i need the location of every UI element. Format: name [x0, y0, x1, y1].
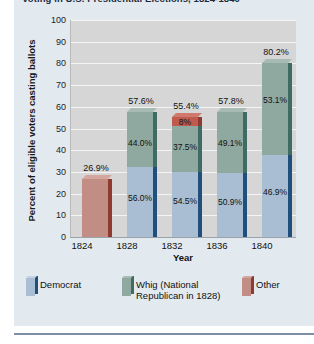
legend-label-whig-line1: Whig (National: [136, 279, 198, 290]
bar-top-whig-1836: [217, 108, 247, 112]
bar-segment-other-1832[interactable]: 8%: [172, 117, 198, 127]
x-tick-1832: 1832: [152, 240, 192, 251]
x-tick-1836: 1836: [197, 240, 237, 251]
chart-legend: Democrat Whig (National Republican in 18…: [26, 276, 304, 316]
x-axis-line: [70, 237, 296, 238]
total-label-1836: 57.8%: [213, 96, 249, 106]
segment-label-whig-1840: 53.1%: [262, 95, 288, 105]
total-label-1824: 26.9%: [78, 163, 114, 173]
bar-group-1828[interactable]: 57.6% 56.0% 44.0%: [127, 112, 157, 237]
bar-group-1832[interactable]: 55.4% 54.5% 37.5% 8%: [172, 117, 202, 237]
legend-item-other[interactable]: Other: [242, 276, 304, 296]
segment-label-whig-1832: 37.5%: [172, 142, 198, 152]
y-tick-50: 50: [40, 124, 66, 134]
total-label-1840: 80.2%: [258, 47, 294, 57]
legend-label-whig: Whig (National Republican in 1828): [136, 276, 221, 301]
bar-side-democrat-1832: [198, 172, 202, 238]
bar-side-democrat-1828: [153, 167, 157, 237]
bar-segment-whig-1828[interactable]: 44.0%: [127, 112, 153, 167]
bar-segment-democrat-1840[interactable]: 46.9%: [262, 155, 288, 237]
y-axis-title-text: Percent of eligible voters casting ballo…: [26, 39, 37, 221]
bar-group-1840[interactable]: 80.2% 46.9% 53.1%: [262, 63, 292, 237]
bar-side-whig-1832: [198, 126, 202, 171]
plot-wrapper: Percent of eligible voters casting ballo…: [24, 14, 304, 262]
bar-side-whig-1840: [288, 63, 292, 155]
legend-label-other: Other: [256, 276, 280, 290]
chart-screenshot: Voting in U.S. Presidential Elections, 1…: [0, 0, 314, 344]
y-tick-20: 20: [40, 189, 66, 199]
bar-group-1836[interactable]: 57.8% 50.9% 49.1%: [217, 112, 247, 237]
x-tick-1828: 1828: [107, 240, 147, 251]
y-tick-40: 40: [40, 145, 66, 155]
bar-side-whig-1828: [153, 112, 157, 167]
bar-side-democrat-1836: [243, 173, 247, 237]
legend-swatch-other-icon: [242, 278, 251, 296]
bar-side-other-1832: [198, 117, 202, 127]
bar-series-container: 26.9% 57.6% 56.0%: [70, 20, 296, 237]
legend-label-democrat: Democrat: [40, 276, 81, 290]
y-tick-30: 30: [40, 167, 66, 177]
bar-side-whig-1836: [243, 112, 247, 174]
legend-swatch-whig-icon: [122, 278, 131, 296]
bar-segment-democrat-1832[interactable]: 54.5%: [172, 172, 198, 238]
segment-label-whig-1828: 44.0%: [127, 138, 153, 148]
bar-segment-whig-1836[interactable]: 49.1%: [217, 112, 243, 174]
y-tick-80: 80: [40, 58, 66, 68]
bar-top-other-1824: [82, 175, 112, 179]
x-tick-1840: 1840: [242, 240, 282, 251]
y-tick-10: 10: [40, 210, 66, 220]
y-tick-60: 60: [40, 102, 66, 112]
x-axis-title: Year: [70, 252, 296, 263]
bar-group-1824[interactable]: 26.9%: [82, 179, 112, 237]
figure-title: Voting in U.S. Presidential Elections, 1…: [22, 0, 308, 4]
legend-label-whig-line2: Republican in 1828): [136, 290, 221, 301]
bar-top-whig-1840: [262, 59, 292, 63]
segment-label-democrat-1836: 50.9%: [217, 197, 243, 207]
bar-side-democrat-1840: [288, 155, 292, 237]
total-label-1828: 57.6%: [123, 96, 159, 106]
bottom-divider: [14, 333, 314, 335]
y-tick-90: 90: [40, 37, 66, 47]
segment-label-democrat-1832: 54.5%: [172, 196, 198, 206]
legend-item-whig[interactable]: Whig (National Republican in 1828): [122, 276, 242, 301]
y-axis-title: Percent of eligible voters casting ballo…: [22, 14, 40, 246]
bar-segment-other-1824[interactable]: [82, 179, 108, 237]
y-tick-70: 70: [40, 80, 66, 90]
bar-top-other-1832: [172, 113, 202, 117]
segment-label-other-1832: 8%: [172, 117, 198, 127]
figure-panel: Voting in U.S. Presidential Elections, 1…: [14, 0, 314, 326]
bar-segment-whig-1832[interactable]: 37.5%: [172, 126, 198, 171]
bar-top-whig-1828: [127, 108, 157, 112]
legend-item-democrat[interactable]: Democrat: [26, 276, 122, 296]
bar-segment-democrat-1828[interactable]: 56.0%: [127, 167, 153, 237]
segment-label-democrat-1840: 46.9%: [262, 187, 288, 197]
segment-label-democrat-1828: 56.0%: [127, 193, 153, 203]
bar-segment-democrat-1836[interactable]: 50.9%: [217, 173, 243, 237]
segment-label-whig-1836: 49.1%: [217, 138, 243, 148]
bar-side-other-1824: [108, 179, 112, 237]
bar-segment-whig-1840[interactable]: 53.1%: [262, 63, 288, 155]
legend-swatch-democrat-icon: [26, 278, 35, 296]
total-label-1832: 55.4%: [168, 101, 204, 111]
y-tick-100: 100: [40, 15, 66, 25]
x-tick-1824: 1824: [62, 240, 102, 251]
